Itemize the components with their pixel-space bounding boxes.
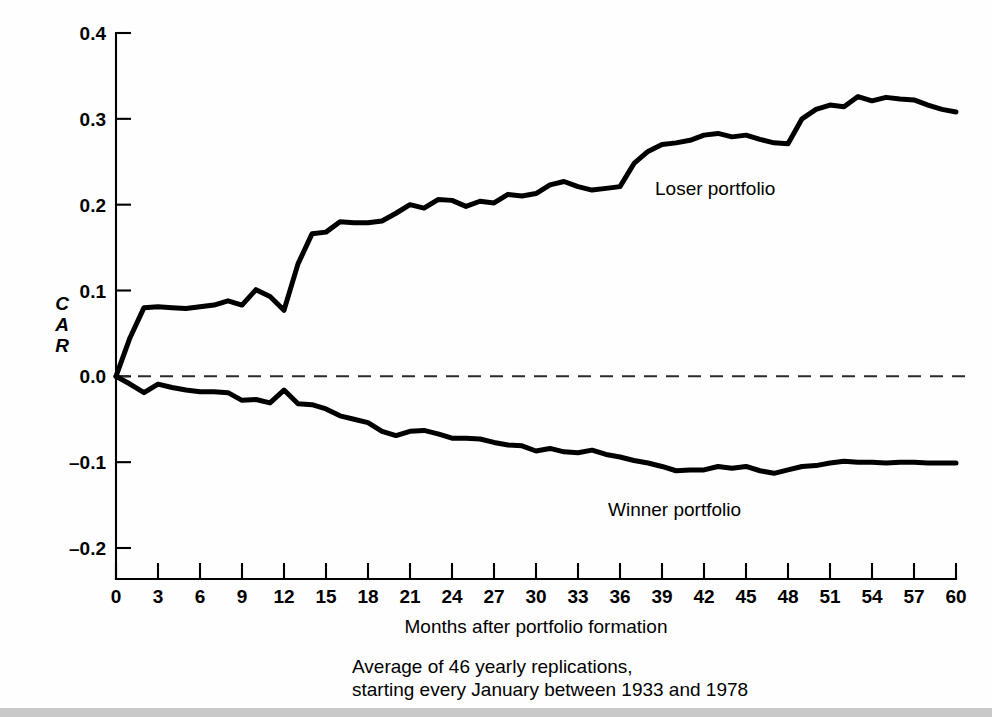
y-tick-label-0: –0.2: [69, 538, 106, 559]
x-tick-label-2: 6: [195, 586, 206, 607]
x-tick-label-12: 36: [609, 586, 630, 607]
caption-line-1: Average of 46 yearly replications,: [352, 656, 633, 677]
x-tick-label-16: 48: [777, 586, 798, 607]
x-tick-label-group: 03691215182124273033363942454851545760: [111, 586, 967, 607]
x-tick-label-13: 39: [651, 586, 672, 607]
x-tick-label-20: 60: [945, 586, 966, 607]
x-tick-label-3: 9: [237, 586, 248, 607]
bottom-gray-band: [0, 708, 992, 717]
y-axis-title-line-0: C: [55, 293, 69, 314]
x-tick-label-15: 45: [735, 586, 757, 607]
y-tick-label-5: 0.3: [80, 109, 106, 130]
y-axis-title-line-1: A: [54, 314, 69, 335]
loser-portfolio-annotation: Loser portfolio: [655, 178, 775, 199]
x-tick-label-0: 0: [111, 586, 122, 607]
x-tick-label-10: 30: [525, 586, 546, 607]
y-tick-label-1: –0.1: [69, 452, 106, 473]
chart-figure: –0.2–0.10.00.10.20.30.4 0369121518212427…: [0, 0, 992, 717]
x-tick-group: [116, 563, 956, 579]
series-line-winner-portfolio: [116, 376, 956, 473]
series-line-loser-portfolio: [116, 97, 956, 377]
x-tick-label-6: 18: [357, 586, 378, 607]
x-tick-label-18: 54: [861, 586, 883, 607]
x-tick-label-4: 12: [273, 586, 294, 607]
x-tick-label-5: 15: [315, 586, 337, 607]
y-axis-title: C A R: [54, 293, 69, 356]
x-tick-label-8: 24: [441, 586, 463, 607]
x-tick-label-9: 27: [483, 586, 504, 607]
y-tick-group: [116, 33, 131, 548]
x-tick-label-11: 33: [567, 586, 588, 607]
data-series-group: [116, 97, 956, 474]
caption-line-2: starting every January between 1933 and …: [352, 679, 748, 700]
y-tick-label-3: 0.1: [80, 281, 107, 302]
y-tick-label-group: –0.2–0.10.00.10.20.30.4: [69, 23, 106, 559]
y-tick-label-6: 0.4: [80, 23, 107, 44]
y-axis-title-line-2: R: [55, 335, 69, 356]
car-line-chart: –0.2–0.10.00.10.20.30.4 0369121518212427…: [0, 0, 992, 717]
x-tick-label-7: 21: [399, 586, 421, 607]
y-tick-label-2: 0.0: [80, 366, 106, 387]
winner-portfolio-annotation: Winner portfolio: [608, 499, 741, 520]
y-tick-label-4: 0.2: [80, 195, 106, 216]
x-tick-label-17: 51: [819, 586, 841, 607]
x-tick-label-19: 57: [903, 586, 924, 607]
x-tick-label-1: 3: [153, 586, 164, 607]
x-axis-title: Months after portfolio formation: [405, 616, 668, 637]
x-tick-label-14: 42: [693, 586, 714, 607]
